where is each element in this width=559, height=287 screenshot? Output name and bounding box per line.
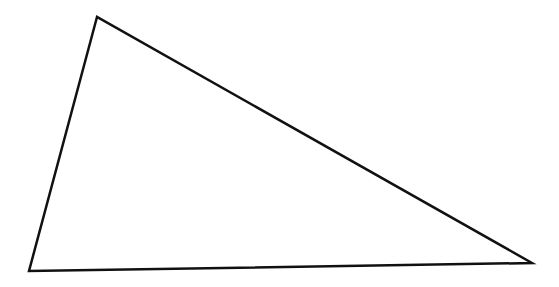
triangle (29, 17, 532, 271)
triangle-diagram (0, 0, 559, 287)
